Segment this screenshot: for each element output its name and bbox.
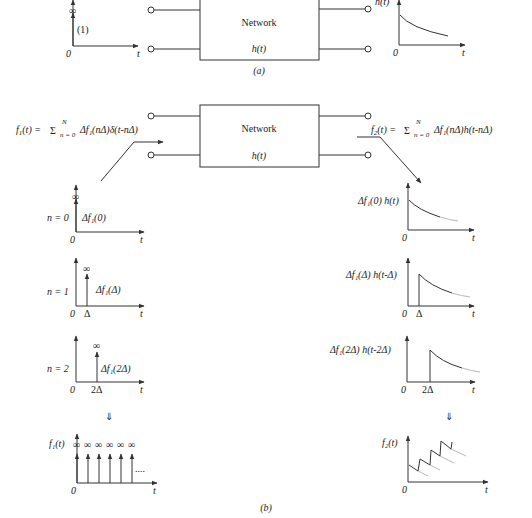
y-label: f₂(t): [382, 437, 398, 449]
caption-a: (a): [253, 65, 265, 77]
sum-lower: n = 0: [414, 131, 430, 139]
infinity-3: ∞: [106, 439, 113, 450]
part-b: Network h(t) f1(t) = Σ N n = 0 Δf₁(nΔ)δ(…: [16, 105, 493, 514]
t-label: t: [153, 485, 156, 496]
t-label: t: [462, 47, 465, 58]
t-label: t: [140, 234, 143, 245]
input-pointer-arrow: [101, 142, 163, 181]
origin-label: 0: [66, 48, 71, 59]
response-tail: [462, 368, 480, 372]
origin-label: 0: [70, 308, 75, 319]
t-label: t: [472, 308, 475, 319]
infinity-5: ∞: [128, 439, 135, 450]
formula-lhs: f1(t) =: [16, 124, 41, 137]
right-response-n2: Δf₁(2Δ) h(t-2Δ) 0 2Δ t: [329, 336, 480, 395]
input-terminal-bottom: [148, 152, 154, 158]
caption-b: (b): [260, 502, 272, 514]
response-curve: [419, 274, 452, 306]
infinity-label: ∞: [93, 340, 100, 351]
infinity-label: ∞: [83, 263, 90, 274]
origin-label: 0: [402, 232, 407, 243]
output-terminal-top: [365, 6, 371, 12]
h-curve: [400, 15, 448, 36]
y-label: f₁(t): [49, 438, 65, 450]
left-impulse-n1: ∞ n = 1 Δf₁(Δ) 0 Δ t: [47, 258, 144, 319]
t-label: t: [137, 48, 140, 59]
formula-term: Δf₁(nΔ)h(t-nΔ): [433, 124, 493, 136]
network-title: Network: [242, 17, 277, 28]
output-terminal-bottom: [365, 152, 371, 158]
sum-lower: n = 0: [60, 131, 76, 139]
response-tail: [440, 217, 458, 221]
response-label: Δf₁(Δ) h(t-Δ): [345, 269, 397, 281]
infinity-label: ∞: [72, 191, 79, 202]
response-label: Δf₁(0) h(t): [357, 195, 399, 207]
t-label: t: [472, 232, 475, 243]
sum-upper: N: [61, 118, 67, 126]
output-terminal-bottom: [365, 46, 371, 52]
tick-label: 2Δ: [91, 384, 103, 395]
impulse-weight: (1): [77, 24, 89, 36]
network-transfer: h(t): [252, 43, 267, 55]
origin-label: 0: [70, 234, 75, 245]
output-pointer-arrow: [357, 137, 421, 183]
n-label: n = 2: [47, 363, 69, 374]
network-title: Network: [242, 123, 277, 134]
origin-label: 0: [393, 47, 398, 58]
input-terminal-top: [148, 113, 154, 119]
weight-label: Δf₁(Δ): [95, 284, 121, 296]
output-formula: f2(t) = Σ N n = 0 Δf₁(nΔ)h(t-nΔ): [357, 118, 493, 183]
left-impulse-n2: ∞ n = 2 Δf₁(2Δ) 0 2Δ t: [47, 336, 144, 395]
tick-label: Δ: [416, 308, 423, 319]
right-response-n0: Δf₁(0) h(t) 0 t: [357, 183, 475, 243]
origin-label: 0: [71, 485, 76, 496]
sawtooth-curve: [409, 441, 452, 471]
sum-upper: N: [415, 118, 421, 126]
convolution-diagram: ∞ (1) 0 t Network h(t) (a) h(t) 0: [0, 0, 532, 518]
formula-term: Δf₁(nΔ)δ(t-nΔ): [79, 124, 139, 136]
input-formula: f1(t) = Σ N n = 0 Δf₁(nΔ)δ(t-nΔ): [16, 118, 163, 181]
input-terminal-bottom: [148, 46, 154, 52]
infinity-0: ∞: [73, 439, 80, 450]
t-label: t: [485, 484, 488, 495]
origin-label: 0: [70, 384, 75, 395]
weight-label: Δf₁(0): [81, 212, 106, 224]
network-transfer: h(t): [252, 150, 267, 162]
output-sum-plot: f₂(t) 0 t: [382, 436, 488, 495]
weight-label: Δf₁(2Δ): [100, 363, 131, 375]
origin-label: 0: [401, 384, 406, 395]
network-block-a: Network h(t): [148, 0, 371, 60]
y-label: h(t): [375, 0, 390, 8]
output-terminal-top: [365, 113, 371, 119]
tick-label: Δ: [84, 308, 91, 319]
output-response-plot: h(t) 0 t: [375, 0, 465, 58]
impulse-train-plot: ∞ ∞ ∞ ∞ ∞ ∞ f₁(t) .... 0 t: [49, 434, 157, 496]
network-block-b: Network h(t): [148, 105, 371, 167]
t-label: t: [140, 308, 143, 319]
right-response-n1: Δf₁(Δ) h(t-Δ) 0 Δ t: [345, 258, 475, 319]
response-curve: [409, 200, 440, 217]
response-curve: [430, 350, 462, 382]
t-label: t: [140, 384, 143, 395]
response-tail: [452, 293, 470, 297]
sum-arrow-left: ⇓: [105, 411, 113, 422]
part-a: ∞ (1) 0 t Network h(t) (a) h(t) 0: [66, 0, 465, 77]
n-label: n = 0: [47, 212, 69, 223]
response-label: Δf₁(2Δ) h(t-2Δ): [329, 344, 391, 356]
infinity-1: ∞: [84, 439, 91, 450]
n-label: n = 1: [47, 286, 69, 297]
formula-lhs: f2(t) =: [371, 124, 396, 137]
input-impulse-plot: ∞ (1) 0 t: [66, 0, 140, 59]
t-label: t: [472, 384, 475, 395]
origin-label: 0: [402, 484, 407, 495]
infinity-2: ∞: [95, 439, 102, 450]
infinity-4: ∞: [117, 439, 124, 450]
tick-label: 2Δ: [422, 384, 434, 395]
infinity-label: ∞: [69, 5, 76, 16]
sum-arrow-right: ⇓: [445, 411, 453, 422]
input-terminal-top: [148, 7, 154, 13]
left-impulse-n0: ∞ n = 0 Δf₁(0) 0 t: [47, 185, 144, 245]
ellipsis: ....: [135, 463, 145, 474]
sigma: Σ: [50, 125, 56, 136]
origin-label: 0: [402, 308, 407, 319]
